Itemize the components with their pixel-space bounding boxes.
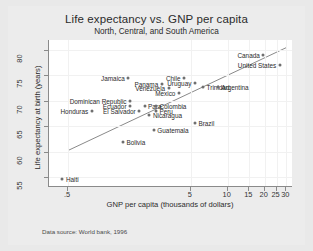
data-point xyxy=(193,122,196,125)
y-axis-tick-label: 55 xyxy=(15,181,24,189)
y-axis-label: Life expectancy at birth (years) xyxy=(33,43,42,193)
x-axis-tick-label: 30 xyxy=(281,190,289,199)
x-axis-tick-label: 25 xyxy=(271,190,279,199)
data-point xyxy=(193,81,196,84)
data-point-label: Nicaragua xyxy=(153,112,182,119)
y-axis-tick-label: 60 xyxy=(15,156,24,164)
data-point xyxy=(121,141,124,144)
data-point-label: Haiti xyxy=(66,175,79,182)
data-point-label: United States xyxy=(238,62,276,69)
data-point-label: Jamaica xyxy=(101,74,125,81)
gridline-horizontal xyxy=(49,152,292,153)
data-point xyxy=(152,129,155,132)
data-point xyxy=(148,114,151,117)
data-point-label: Guatemala xyxy=(157,127,188,134)
data-point-label: Brazil xyxy=(198,120,214,127)
data-point xyxy=(143,105,146,108)
gridline-vertical xyxy=(286,40,287,186)
chart-subtitle: North, Central, and South America xyxy=(0,27,313,36)
data-point-label: Canada xyxy=(237,52,259,59)
x-axis-tick-label: 15 xyxy=(244,190,252,199)
data-point-label: Uruguay xyxy=(167,79,191,86)
chart-title: Life expectancy vs. GNP per capita xyxy=(0,13,313,25)
gridline-vertical xyxy=(277,40,278,186)
x-axis-label: GNP per capita (thousands of dollars) xyxy=(48,200,292,209)
y-axis-tick-label: 65 xyxy=(15,131,24,139)
y-axis-tick-label: 75 xyxy=(15,80,24,88)
data-point xyxy=(278,64,281,67)
data-point xyxy=(202,85,205,88)
data-point-label: Honduras xyxy=(61,107,89,114)
x-axis-tick-label: .5 xyxy=(64,190,70,199)
data-point xyxy=(216,85,219,88)
x-axis-tick-label: 5 xyxy=(188,190,192,199)
data-point xyxy=(177,92,180,95)
x-axis-tick-label: 10 xyxy=(223,190,231,199)
data-point-label: El Salvador xyxy=(103,107,136,114)
data-point xyxy=(61,177,64,180)
data-point xyxy=(138,109,141,112)
data-point-label: Mexico xyxy=(155,90,175,97)
data-point xyxy=(154,105,157,108)
data-point xyxy=(167,86,170,89)
data-point xyxy=(127,76,130,79)
data-point xyxy=(262,54,265,57)
chart-screenshot: Life expectancy vs. GNP per capita North… xyxy=(0,0,313,251)
gridline-vertical xyxy=(191,40,192,186)
y-axis-tick-label: 70 xyxy=(15,105,24,113)
y-axis-tick-label: 80 xyxy=(15,55,24,63)
x-axis-tick-label: 20 xyxy=(260,190,268,199)
plot-area: CanadaUnited StatesJamaicaChileUruguayPa… xyxy=(48,40,292,187)
data-point-label: Argentina xyxy=(221,83,248,90)
gridline-horizontal xyxy=(49,177,292,178)
data-point-label: Bolivia xyxy=(126,139,145,146)
gridline-vertical xyxy=(228,40,229,186)
data-point xyxy=(90,109,93,112)
source-note: Data source: World bank, 1996 xyxy=(42,228,127,235)
data-point xyxy=(129,100,132,103)
